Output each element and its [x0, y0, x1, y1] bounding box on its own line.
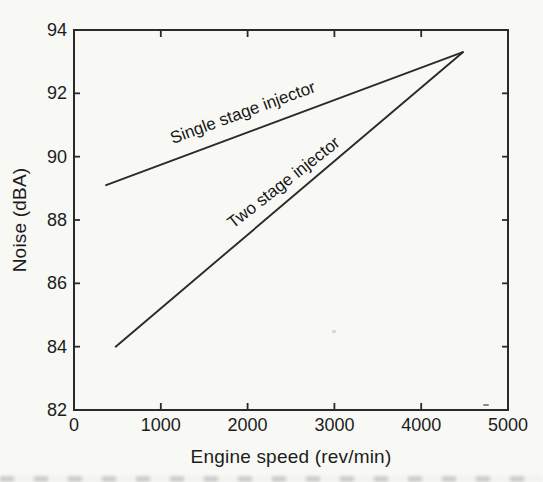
x-tick-label-4000: 4000 [401, 415, 441, 435]
scan-speck [332, 330, 336, 333]
x-tick-label-0: 0 [69, 415, 79, 435]
y-tick-label-86: 86 [47, 273, 67, 293]
x-tick-label-3000: 3000 [314, 415, 354, 435]
y-tick-label-90: 90 [47, 147, 67, 167]
y-axis-title: Noise (dBA) [9, 168, 31, 273]
scan-speck [483, 404, 489, 406]
y-tick-label-94: 94 [47, 20, 67, 40]
y-tick-label-84: 84 [47, 337, 67, 357]
y-tick-label-82: 82 [47, 400, 67, 420]
x-tick-label-1000: 1000 [141, 415, 181, 435]
y-tick-label-92: 92 [47, 83, 67, 103]
x-axis-title: Engine speed (rev/min) [191, 446, 392, 468]
scan-artifact-smear [0, 476, 543, 482]
series-line-single-stage-injector [106, 52, 463, 185]
x-tick-label-5000: 5000 [488, 415, 528, 435]
noise-vs-engine-speed-chart: 01000200030004000500082848688909294 [0, 0, 543, 482]
scanned-figure-page: 01000200030004000500082848688909294 Nois… [0, 0, 543, 482]
x-tick-label-2000: 2000 [228, 415, 268, 435]
y-tick-label-88: 88 [47, 210, 67, 230]
